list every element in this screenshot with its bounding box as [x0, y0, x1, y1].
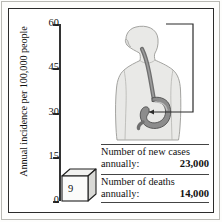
bar-cube-3d: 9 9: [61, 168, 97, 202]
y-tick-label: 45: [35, 61, 59, 72]
torso-anatomy-illustration: [97, 18, 202, 142]
stat-value: 14,000: [180, 188, 209, 200]
y-axis-title: Annual incidence per 100,000 people: [18, 17, 29, 187]
stat-label-line1: Number of new cases: [101, 145, 209, 158]
stat-label-line2: annually:: [101, 188, 139, 200]
bar-value-label: 9: [68, 183, 73, 194]
y-tick-label: 60: [35, 17, 59, 28]
stat-label-line2: annually:: [101, 158, 139, 170]
stat-value: 23,000: [180, 158, 209, 170]
stomach-cancer-incidence-figure: Annual incidence per 100,000 people 60 4…: [0, 0, 222, 222]
stat-label-line1: Number of deaths: [101, 175, 209, 188]
y-tick-label: 15: [35, 150, 59, 161]
divider-rule: [101, 202, 209, 203]
y-tick-label: 30: [35, 106, 59, 117]
stat-new-cases: Number of new cases annually: 23,000: [101, 144, 209, 171]
y-tick-label: 0: [35, 194, 59, 205]
stat-deaths: Number of deaths annually: 14,000: [101, 174, 209, 203]
